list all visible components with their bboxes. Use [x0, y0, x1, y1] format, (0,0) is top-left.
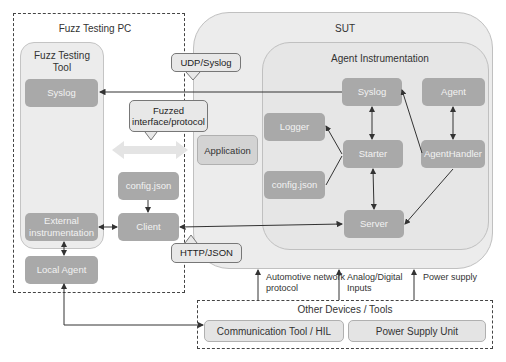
server-node[interactable]: Server — [344, 210, 404, 238]
logger-node[interactable]: Logger — [264, 113, 325, 141]
agent-node[interactable]: Agent — [422, 78, 485, 106]
fuzz-syslog-node[interactable]: Syslog — [25, 79, 98, 107]
fuzz-testing-pc-title: Fuzz Testing PC — [40, 23, 150, 35]
application-node[interactable]: Application — [197, 135, 258, 165]
client-node[interactable]: Client — [118, 213, 179, 241]
analog-digital-link-label: Analog/Digital Inputs — [347, 272, 417, 294]
fuzz-testing-tool-title: Fuzz Testing Tool — [32, 50, 92, 74]
external-instrumentation-node[interactable]: External instrumentation — [25, 213, 98, 241]
fuzzed-interface-callout: Fuzzed interface/protocol — [129, 100, 208, 132]
automotive-link-label: Automotive network protocol — [266, 272, 346, 294]
power-supply-link-label: Power supply — [423, 272, 493, 283]
local-agent-node[interactable]: Local Agent — [25, 256, 98, 284]
communication-tool-node[interactable]: Communication Tool / HIL — [204, 320, 344, 342]
sut-syslog-node[interactable]: Syslog — [342, 78, 402, 106]
agent-instrumentation-title: Agent Instrumentation — [310, 53, 450, 65]
sut-title: SUT — [320, 23, 370, 35]
client-config-json-node[interactable]: config.json — [118, 172, 179, 200]
power-supply-unit-node[interactable]: Power Supply Unit — [348, 320, 486, 342]
http-json-callout: HTTP/JSON — [171, 243, 242, 263]
agent-handler-node[interactable]: AgentHandler — [421, 140, 485, 168]
starter-node[interactable]: Starter — [343, 140, 403, 168]
udp-syslog-callout: UDP/Syslog — [171, 53, 241, 72]
other-devices-title: Other Devices / Tools — [280, 304, 410, 316]
sut-config-json-node[interactable]: config.json — [264, 171, 325, 199]
